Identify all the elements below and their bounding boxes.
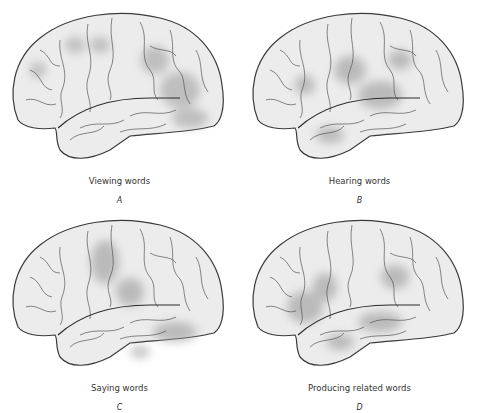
caption-hearing-words: Hearing words xyxy=(240,176,479,186)
caption-saying-words: Saying words xyxy=(0,383,239,393)
panel-letter-a: A xyxy=(0,196,239,205)
panel-letter-c: C xyxy=(0,403,239,412)
brain-illustration-c xyxy=(0,207,239,377)
caption-producing-related-words: Producing related words xyxy=(240,383,479,393)
panel-letter-b: B xyxy=(240,196,479,205)
brain-illustration-d xyxy=(240,207,479,377)
panel-letter-d: D xyxy=(240,403,479,412)
panel-d: Producing related words D xyxy=(240,207,479,413)
brain-illustration-b xyxy=(240,0,479,170)
caption-viewing-words: Viewing words xyxy=(0,176,239,186)
panel-c: Saying words C xyxy=(0,207,239,413)
panel-b: Hearing words B xyxy=(240,0,479,206)
brain-illustration-a xyxy=(0,0,239,170)
panel-a: Viewing words A xyxy=(0,0,239,206)
